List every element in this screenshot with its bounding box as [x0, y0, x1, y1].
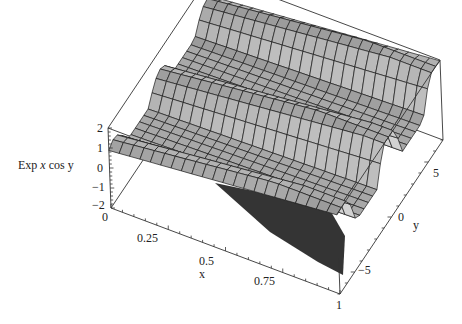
y-tick-label: 0	[398, 211, 404, 223]
z-title-mid: cos	[46, 158, 68, 172]
z-tick-label: 2	[97, 122, 103, 134]
z-tick-label: 1	[97, 142, 103, 154]
x-tick-label: 0.25	[137, 232, 158, 244]
z-tick-label: −1	[92, 181, 105, 193]
x-axis-title: x	[199, 268, 205, 280]
z-axis-title: Exp x cos y	[18, 159, 74, 171]
y-tick-label: −5	[358, 264, 371, 276]
y-tick-label: 5	[433, 167, 439, 179]
z-tick-label: 0	[97, 162, 103, 174]
x-tick-label: 1	[336, 299, 342, 311]
x-tick-label: 0	[102, 211, 108, 223]
x-tick-label: 0.5	[199, 255, 214, 267]
y-axis-title: y	[413, 219, 419, 231]
z-title-prefix: Exp	[18, 158, 40, 172]
x-tick-label: 0.75	[254, 275, 275, 287]
z-title-var-y: y	[68, 158, 74, 172]
